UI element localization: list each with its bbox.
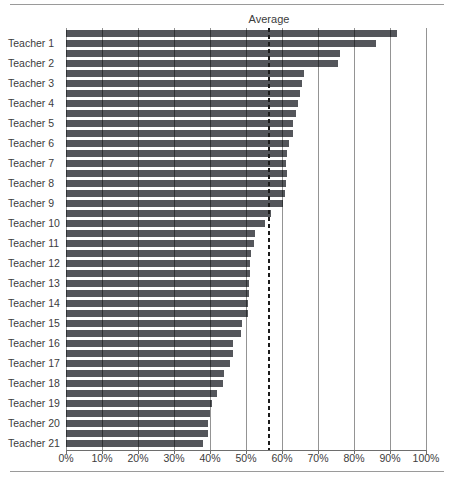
bar-teacher-16-bar-2: [66, 340, 233, 347]
gridline-40%: [210, 28, 211, 450]
bar-teacher-6-bar-1: [66, 130, 293, 137]
category-label-teacher-10: Teacher 10: [8, 218, 66, 229]
bar-teacher-9-bar-1: [66, 190, 285, 197]
x-tick-label: 40%: [190, 452, 230, 464]
x-tick-label: 30%: [154, 452, 194, 464]
bar-teacher-5-bar-2: [66, 120, 293, 127]
x-tick-label: 20%: [118, 452, 158, 464]
category-label-teacher-9: Teacher 9: [8, 198, 66, 209]
chart-page: Average Teacher 1Teacher 2Teacher 3Teach…: [0, 0, 449, 483]
category-label-teacher-15: Teacher 15: [8, 318, 66, 329]
bar-teacher-14-bar-2: [66, 300, 248, 307]
category-label-teacher-7: Teacher 7: [8, 158, 66, 169]
category-label-teacher-21: Teacher 21: [8, 438, 66, 449]
bar-teacher-7-bar-2: [66, 160, 286, 167]
plot-area: [66, 28, 427, 450]
category-label-teacher-6: Teacher 6: [8, 138, 66, 149]
bar-teacher-12-bar-1: [66, 250, 251, 257]
category-label-teacher-17: Teacher 17: [8, 358, 66, 369]
bar-teacher-1-bar-1: [66, 30, 397, 37]
bar-teacher-21-bar-2: [66, 440, 203, 447]
category-label-teacher-8: Teacher 8: [8, 178, 66, 189]
category-label-teacher-18: Teacher 18: [8, 378, 66, 389]
category-label-teacher-19: Teacher 19: [8, 398, 66, 409]
bar-teacher-15-bar-2: [66, 320, 242, 327]
average-dashed-line: [268, 28, 270, 450]
bar-teacher-8-bar-1: [66, 170, 287, 177]
bar-teacher-17-bar-1: [66, 350, 233, 357]
bar-teacher-14-bar-1: [66, 290, 249, 297]
bar-teacher-15-bar-1: [66, 310, 248, 317]
bar-teacher-2-bar-1: [66, 50, 340, 57]
bar-teacher-7-bar-1: [66, 150, 287, 157]
category-label-teacher-11: Teacher 11: [8, 238, 66, 249]
bar-teacher-17-bar-2: [66, 360, 230, 367]
x-tick-label: 70%: [298, 452, 338, 464]
bar-teacher-1-bar-2: [66, 40, 376, 47]
x-tick-label: 0%: [46, 452, 86, 464]
category-label-teacher-13: Teacher 13: [8, 278, 66, 289]
gridline-0%: [66, 28, 67, 450]
category-label-teacher-14: Teacher 14: [8, 298, 66, 309]
gridline-30%: [174, 28, 175, 450]
gridline-90%: [390, 28, 391, 450]
bar-teacher-5-bar-1: [66, 110, 296, 117]
category-label-teacher-3: Teacher 3: [8, 78, 66, 89]
category-label-teacher-12: Teacher 12: [8, 258, 66, 269]
gridline-100%: [426, 28, 427, 450]
category-label-teacher-20: Teacher 20: [8, 418, 66, 429]
bar-teacher-4-bar-2: [66, 100, 298, 107]
bar-teacher-10-bar-2: [66, 220, 265, 227]
bar-teacher-18-bar-2: [66, 380, 223, 387]
category-label-teacher-2: Teacher 2: [8, 58, 66, 69]
gridline-70%: [318, 28, 319, 450]
bar-teacher-18-bar-1: [66, 370, 224, 377]
category-label-teacher-1: Teacher 1: [8, 38, 66, 49]
gridline-60%: [282, 28, 283, 450]
bar-teacher-19-bar-1: [66, 390, 217, 397]
gridline-10%: [102, 28, 103, 450]
bar-teacher-13-bar-2: [66, 280, 249, 287]
bar-teacher-2-bar-2: [66, 60, 338, 67]
bar-teacher-11-bar-2: [66, 240, 254, 247]
bar-teacher-10-bar-1: [66, 210, 271, 217]
category-label-teacher-4: Teacher 4: [8, 98, 66, 109]
bar-teacher-13-bar-1: [66, 270, 250, 277]
x-tick-label: 100%: [406, 452, 446, 464]
category-label-teacher-16: Teacher 16: [8, 338, 66, 349]
category-label-teacher-5: Teacher 5: [8, 118, 66, 129]
bar-teacher-6-bar-2: [66, 140, 289, 147]
x-tick-label: 60%: [262, 452, 302, 464]
top-rule: [10, 4, 444, 5]
gridline-20%: [138, 28, 139, 450]
x-tick-label: 50%: [226, 452, 266, 464]
gridline-50%: [246, 28, 247, 450]
bar-teacher-11-bar-1: [66, 230, 255, 237]
x-tick-label: 10%: [82, 452, 122, 464]
average-label: Average: [229, 13, 309, 25]
bar-teacher-16-bar-1: [66, 330, 241, 337]
gridline-80%: [354, 28, 355, 450]
bar-teacher-12-bar-2: [66, 260, 250, 267]
bottom-rule: [10, 471, 444, 472]
bar-teacher-8-bar-2: [66, 180, 286, 187]
x-tick-label: 80%: [334, 452, 374, 464]
x-tick-label: 90%: [370, 452, 410, 464]
